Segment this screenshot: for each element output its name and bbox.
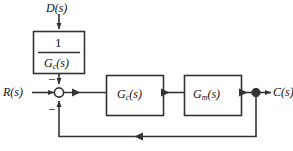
feedforward-denominator-base: G: [44, 56, 53, 70]
feedback-direction-arrowhead: [135, 133, 144, 141]
feedforward-numerator: 1: [55, 36, 62, 49]
reference-arg: (s): [10, 85, 23, 99]
diagram-svg: [0, 0, 293, 151]
controller-to-plant-arrowhead: [161, 89, 170, 97]
disturbance-arg: (s): [55, 1, 68, 15]
disturbance-base: D: [46, 1, 55, 15]
sum-sign-bottom: −: [48, 103, 55, 116]
disturbance-label: D(s): [46, 2, 67, 14]
controller-base: G: [117, 87, 126, 101]
output-arg: (s): [281, 85, 293, 99]
plant-to-node-arrowhead: [239, 89, 248, 97]
feedforward-denominator: Gc(s): [44, 57, 69, 71]
plant-base: G: [193, 87, 202, 101]
reference-label: R(s): [3, 86, 23, 98]
controller-arg: (s): [129, 87, 142, 101]
feedforward-denominator-arg: (s): [56, 56, 69, 70]
sum-to-controller-arrowhead: [72, 89, 81, 97]
block-diagram-canvas: D(s) 1 Gc(s) R(s) − − Gc(s) Gm(s) C(s): [0, 0, 293, 151]
controller-block-label: Gc(s): [117, 88, 142, 102]
plant-arg: (s): [207, 87, 220, 101]
summing-junction: [54, 88, 63, 97]
sum-sign-top: −: [48, 73, 55, 86]
output-label: C(s): [273, 86, 293, 98]
output-base: C: [273, 85, 281, 99]
plant-block-label: Gm(s): [193, 88, 220, 102]
